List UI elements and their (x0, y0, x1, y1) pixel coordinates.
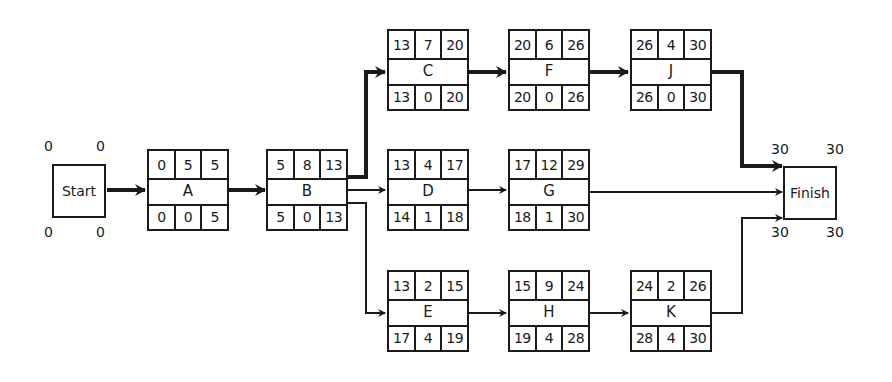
node-e-lf: 19 (440, 325, 467, 350)
node-c-duration: 7 (414, 31, 441, 58)
node-e-es: 13 (389, 272, 414, 299)
node-j-es: 26 (632, 31, 657, 58)
node-j: 26430 J 26030 (630, 29, 712, 111)
node-c-ls: 13 (389, 84, 414, 109)
node-b-ls: 5 (268, 204, 293, 229)
node-h-duration: 9 (535, 272, 562, 299)
node-c-label: C (389, 58, 467, 86)
node-j-ef: 30 (683, 31, 710, 58)
node-f-slack: 0 (535, 84, 562, 109)
node-a-ef: 5 (200, 151, 227, 178)
node-f-es: 20 (510, 31, 535, 58)
node-g-ef: 29 (561, 151, 588, 178)
node-f-ls: 20 (510, 84, 535, 109)
node-j-duration: 4 (657, 31, 684, 58)
node-j-label: J (632, 58, 710, 86)
node-g-label: G (510, 178, 588, 206)
node-c: 13720 C 13020 (387, 29, 469, 111)
node-a: 055 A 005 (147, 149, 229, 231)
node-h-slack: 4 (535, 325, 562, 350)
node-e-label: E (389, 299, 467, 327)
node-d-es: 13 (389, 151, 414, 178)
start-es: 0 (44, 138, 53, 154)
node-k-lf: 30 (683, 325, 710, 350)
node-j-slack: 0 (657, 84, 684, 109)
finish-label: Finish (790, 185, 830, 201)
node-b-es: 5 (268, 151, 293, 178)
node-e-ls: 17 (389, 325, 414, 350)
node-d-ef: 17 (440, 151, 467, 178)
node-b-slack: 0 (293, 204, 320, 229)
node-a-es: 0 (149, 151, 174, 178)
node-h: 15924 H 19428 (508, 270, 590, 352)
node-j-lf: 30 (683, 84, 710, 109)
node-d-duration: 4 (414, 151, 441, 178)
start-label: Start (62, 183, 96, 199)
node-g: 171229 G 18130 (508, 149, 590, 231)
finish-ls: 30 (771, 224, 789, 240)
network-diagram: Start 0 0 0 0 Finish 30 30 30 30 055 A 0… (0, 0, 892, 382)
node-e-ef: 15 (440, 272, 467, 299)
node-k-slack: 4 (657, 325, 684, 350)
node-b-lf: 13 (319, 204, 346, 229)
edge-b-e (347, 203, 385, 313)
node-c-es: 13 (389, 31, 414, 58)
node-a-lf: 5 (200, 204, 227, 229)
node-b: 5813 B 5013 (266, 149, 348, 231)
start-lf: 0 (96, 224, 105, 240)
node-d: 13417 D 14118 (387, 149, 469, 231)
finish-lf: 30 (826, 224, 844, 240)
node-c-lf: 20 (440, 84, 467, 109)
node-f-duration: 6 (535, 31, 562, 58)
node-d-ls: 14 (389, 204, 414, 229)
node-g-duration: 12 (535, 151, 562, 178)
node-k-ef: 26 (683, 272, 710, 299)
node-j-ls: 26 (632, 84, 657, 109)
start-node: Start (52, 164, 106, 218)
node-e-slack: 4 (414, 325, 441, 350)
node-b-duration: 8 (293, 151, 320, 178)
node-g-lf: 30 (561, 204, 588, 229)
node-c-slack: 0 (414, 84, 441, 109)
node-e-duration: 2 (414, 272, 441, 299)
node-h-label: H (510, 299, 588, 327)
node-h-ef: 24 (561, 272, 588, 299)
node-a-duration: 5 (174, 151, 201, 178)
finish-es: 30 (771, 141, 789, 157)
node-f-lf: 26 (561, 84, 588, 109)
node-g-ls: 18 (510, 204, 535, 229)
node-f: 20626 F 20026 (508, 29, 590, 111)
node-d-label: D (389, 178, 467, 206)
node-e: 13215 E 17419 (387, 270, 469, 352)
node-k-es: 24 (632, 272, 657, 299)
start-ls: 0 (44, 224, 53, 240)
node-b-ef: 13 (319, 151, 346, 178)
node-d-lf: 18 (440, 204, 467, 229)
node-a-slack: 0 (174, 204, 201, 229)
node-k: 24226 K 28430 (630, 270, 712, 352)
node-h-lf: 28 (561, 325, 588, 350)
node-h-ls: 19 (510, 325, 535, 350)
node-k-duration: 2 (657, 272, 684, 299)
node-b-label: B (268, 178, 346, 206)
node-k-label: K (632, 299, 710, 327)
node-f-ef: 26 (561, 31, 588, 58)
node-c-ef: 20 (440, 31, 467, 58)
node-f-label: F (510, 58, 588, 86)
node-h-es: 15 (510, 272, 535, 299)
node-a-label: A (149, 178, 227, 206)
finish-ef: 30 (826, 141, 844, 157)
start-ef: 0 (96, 138, 105, 154)
node-k-ls: 28 (632, 325, 657, 350)
node-d-slack: 1 (414, 204, 441, 229)
finish-node: Finish (783, 166, 837, 220)
node-g-slack: 1 (535, 204, 562, 229)
node-g-es: 17 (510, 151, 535, 178)
node-a-ls: 0 (149, 204, 174, 229)
edge-b-c (347, 72, 385, 177)
